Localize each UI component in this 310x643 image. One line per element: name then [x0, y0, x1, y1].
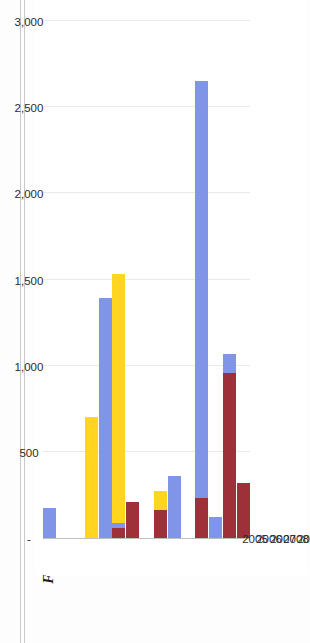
bar-segment-energy	[168, 476, 181, 538]
bar-stack	[99, 299, 112, 539]
bar-segment-energy	[195, 81, 208, 498]
bar-segment-infrastructure	[154, 510, 167, 538]
figure-page: Figure 31: Chinese Investments (in US$ m…	[0, 0, 310, 643]
bar-segment-energy	[99, 299, 112, 539]
plot-area	[43, 0, 250, 539]
bar-stack	[237, 483, 250, 538]
bar-segment-metals	[154, 491, 167, 510]
bar-segment-infrastructure	[237, 483, 250, 538]
bar-segment-infrastructure	[112, 528, 125, 538]
bar-stack	[223, 354, 236, 538]
chart-legend: InfrastructureEnergyMetalsOthers	[267, 0, 297, 539]
value-axis: -5001,0001,5002,0002,5003,000	[0, 0, 35, 539]
gridline	[43, 20, 250, 21]
gridline	[43, 279, 250, 280]
gridline	[43, 451, 250, 452]
bar-stack	[85, 417, 98, 538]
gridline	[43, 192, 250, 193]
bar-segment-infrastructure	[195, 498, 208, 538]
gridline	[43, 365, 250, 366]
chart-container: -5001,0001,5002,0002,5003,000 2005200620…	[35, 0, 307, 575]
bar-segment-infrastructure	[126, 502, 139, 538]
bar-stack	[154, 491, 167, 538]
bar-stack	[209, 517, 222, 538]
bar-stack	[43, 508, 56, 538]
bar-stack	[168, 476, 181, 538]
gridline	[43, 106, 250, 107]
bar-segment-energy	[209, 517, 222, 538]
bar-stack	[126, 502, 139, 538]
bar-stack	[112, 274, 125, 538]
bar-stack	[195, 81, 208, 538]
bar-chart: -5001,0001,5002,0002,5003,000 2005200620…	[35, 0, 307, 575]
bar-segment-energy	[223, 354, 236, 373]
bar-segment-metals	[112, 274, 125, 522]
bar-segment-infrastructure	[223, 373, 236, 538]
bar-segment-metals	[85, 417, 98, 538]
category-label: 2010	[302, 533, 310, 545]
bar-segment-energy	[112, 523, 125, 528]
bar-segment-energy	[43, 508, 56, 538]
